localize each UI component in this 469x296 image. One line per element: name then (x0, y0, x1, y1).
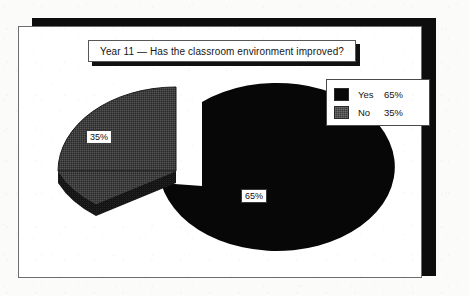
chart-legend: Yes 65% No 35% (326, 79, 430, 126)
pie-data-label-no: 35% (86, 130, 112, 144)
pie-data-label-yes: 65% (241, 189, 267, 203)
pie-chart-svg (18, 26, 422, 278)
legend-swatch-yes-icon (334, 88, 349, 101)
legend-value-yes: 65% (384, 89, 403, 100)
legend-row-no: No 35% (334, 103, 429, 121)
legend-label-yes: Yes (358, 89, 384, 100)
legend-value-no: 35% (384, 107, 403, 118)
chart-screenshot: Year 11 — Has the classroom environment … (0, 0, 469, 296)
legend-row-yes: Yes 65% (334, 85, 429, 103)
legend-label-no: No (358, 107, 384, 118)
pie-chart (18, 26, 422, 278)
legend-swatch-no-icon (334, 106, 349, 119)
pie-slice-no (58, 87, 176, 171)
